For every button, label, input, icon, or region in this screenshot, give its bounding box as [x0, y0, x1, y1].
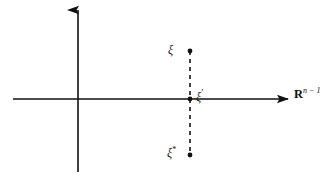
- label-xi: ξ: [168, 44, 173, 56]
- figure-vector-graphic: [0, 0, 330, 177]
- figure-canvas: ξ ξ′ ξ* Rn − 1: [0, 0, 330, 177]
- label-xi-prime-superscript: ′: [201, 87, 203, 98]
- label-euclidean-space: Rn − 1: [294, 87, 320, 101]
- label-xi-star: ξ*: [167, 146, 176, 159]
- label-xi-star-superscript: *: [172, 145, 176, 154]
- label-space-symbol: R: [294, 87, 303, 101]
- point-xi: [188, 49, 193, 54]
- point-xi-star: [188, 153, 193, 158]
- label-space-superscript: n − 1: [303, 86, 320, 95]
- point-xi-prime: [188, 97, 193, 102]
- label-xi-glyph: ξ: [168, 43, 173, 57]
- label-xi-prime: ξ′: [196, 88, 203, 103]
